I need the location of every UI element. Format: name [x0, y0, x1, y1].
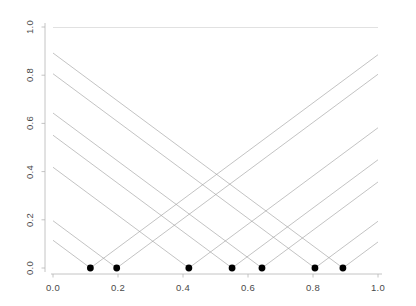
data-point-marker [185, 265, 192, 272]
y-tick-label: 1.0 [24, 20, 35, 34]
data-point-marker [229, 265, 236, 272]
data-point-marker [259, 265, 266, 272]
y-tick-label: 0.4 [24, 165, 35, 179]
data-layer [53, 27, 378, 268]
chart-canvas [0, 0, 416, 306]
data-point-marker [113, 265, 120, 272]
series-line-2 [53, 128, 378, 268]
x-tick-label: 0.8 [306, 282, 320, 293]
series-line-0 [53, 55, 378, 268]
y-tick-label: 0.8 [24, 68, 35, 82]
data-point-marker [312, 265, 319, 272]
data-point-marker [340, 265, 347, 272]
y-tick-label: 0.2 [24, 213, 35, 227]
series-line-4 [53, 113, 378, 268]
x-tick-label: 0.0 [46, 282, 60, 293]
series-line-5 [53, 74, 378, 268]
x-tick-label: 0.4 [176, 282, 190, 293]
x-tick-label: 1.0 [371, 282, 385, 293]
data-point-marker [87, 265, 94, 272]
series-line-6 [53, 53, 378, 268]
chart-figure: 0.00.20.40.60.81.00.00.20.40.60.81.0 [0, 0, 416, 306]
y-tick-label: 0.0 [24, 261, 35, 275]
x-tick-label: 0.2 [111, 282, 125, 293]
y-tick-label: 0.6 [24, 116, 35, 130]
x-tick-label: 0.6 [241, 282, 255, 293]
